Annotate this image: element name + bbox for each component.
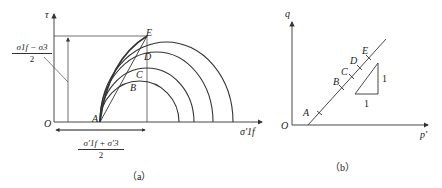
point-a-label-b: A [303,108,309,118]
panel-a-plot [44,14,262,130]
slope-triangle [355,63,378,94]
point-b-label-b: B [333,77,339,87]
mean-stress-fraction: σ'1f + σ'3 2 [78,138,124,161]
mohr-circle-d [100,52,213,122]
slope-rise-label: 1 [382,74,387,84]
slope-run-label: 1 [364,99,369,109]
mohr-circle-e [100,42,233,122]
mohr-circle-b [100,81,179,122]
point-d-label-b: D [350,56,357,66]
point-c-label: C [136,70,143,80]
q-axis-label: q [285,9,290,19]
stress-path-line [308,39,386,125]
sigma-axis-label: σ'1f [240,127,255,137]
point-e-label-b: E [362,46,368,56]
caption-a: （a） [127,172,151,182]
p-axis-label: p' [420,130,427,140]
origin-label-a: O [44,119,51,129]
point-a-label: A [92,114,98,124]
tau-axis-label: τ [45,10,49,20]
point-e-label: E [146,28,152,38]
deviator-fraction: σ1f − σ3 2 [12,42,52,65]
origin-label-b: O [281,121,288,131]
point-d-label: D [144,52,151,62]
point-c-label-b: C [341,67,348,77]
caption-b: （b） [330,163,355,173]
panel-b-plot [292,22,428,125]
diagram-canvas [0,0,442,188]
point-b-label: B [130,83,136,93]
